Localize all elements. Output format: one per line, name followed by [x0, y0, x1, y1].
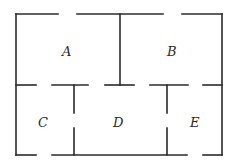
room-label-d: D [113, 115, 123, 130]
room-label-c: C [38, 115, 48, 130]
room-label-b: B [167, 44, 177, 59]
room-label-e: E [190, 115, 200, 130]
floor-plan-walls [0, 0, 234, 165]
room-label-a: A [62, 44, 71, 59]
